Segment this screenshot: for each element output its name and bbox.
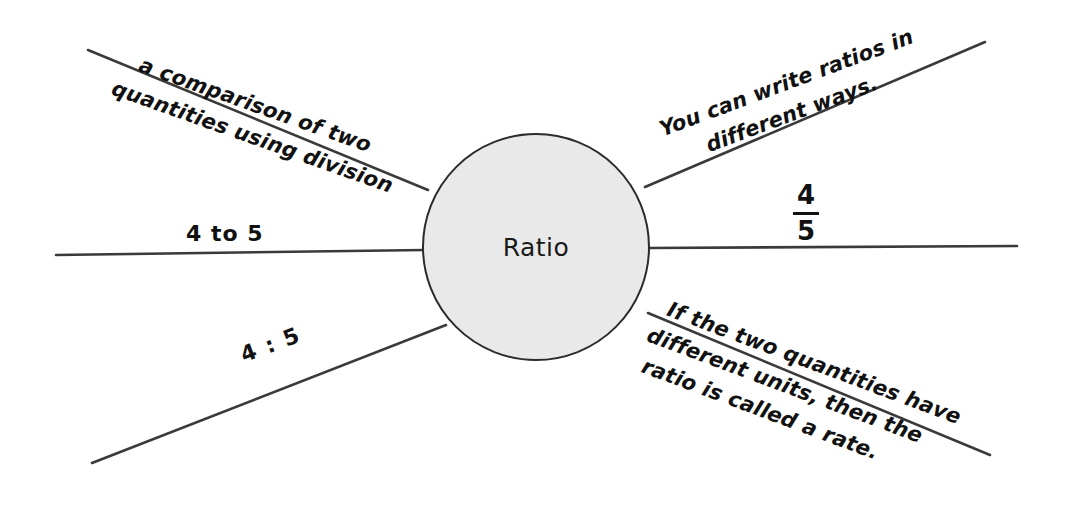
fraction-four-fifths: 4 5: [793, 182, 819, 246]
branch-line-four-to-five: [56, 250, 424, 255]
branch-label-four-to-five: 4 to 5: [186, 218, 264, 251]
branch-line-fraction: [648, 246, 1017, 248]
center-node-circle: Ratio: [422, 133, 650, 361]
fraction-bar: [793, 212, 819, 215]
concept-web-diagram: Ratio a comparison of two quantities usi…: [0, 0, 1066, 519]
fraction-denominator: 5: [793, 218, 819, 245]
fraction-numerator: 4: [793, 182, 819, 209]
center-node-label: Ratio: [503, 233, 570, 262]
